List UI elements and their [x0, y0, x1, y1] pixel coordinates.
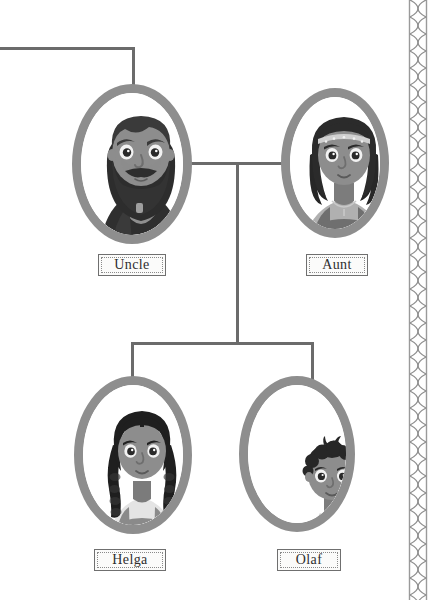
oval-frame-aunt — [281, 88, 389, 238]
plaque-label: Helga — [112, 553, 147, 567]
connector-top-horizontal — [0, 47, 135, 50]
connector-children-bar — [131, 342, 314, 345]
oval-frame-olaf — [239, 376, 355, 532]
plaque-label: Olaf — [296, 553, 322, 567]
plaque-olaf: Olaf — [277, 549, 341, 571]
connector-uncle-drop — [132, 47, 135, 89]
portrait-helga[interactable] — [74, 376, 192, 534]
plaque-label: Uncle — [114, 258, 149, 272]
braided-border-icon — [406, 0, 430, 600]
plaque-uncle: Uncle — [98, 254, 166, 276]
portrait-art-aunt — [290, 97, 380, 229]
connector-children-drop — [236, 162, 239, 344]
plaque-label: Aunt — [322, 258, 352, 272]
portrait-art-helga — [83, 385, 183, 525]
oval-frame-uncle — [72, 84, 192, 244]
portrait-olaf[interactable] — [239, 376, 355, 532]
family-tree-illustration: UncleAuntHelgaOlaf — [0, 0, 430, 600]
plaque-aunt: Aunt — [306, 254, 368, 276]
portrait-aunt[interactable] — [281, 88, 389, 238]
portrait-art-uncle — [81, 93, 183, 235]
plaque-helga: Helga — [94, 549, 166, 571]
oval-frame-helga — [74, 376, 192, 534]
portrait-uncle[interactable] — [72, 84, 192, 244]
portrait-art-olaf — [248, 385, 346, 523]
